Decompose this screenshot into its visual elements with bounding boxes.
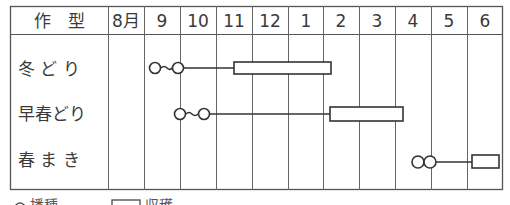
harvest-bar	[234, 62, 331, 74]
month-10: 10	[187, 11, 209, 31]
crop-schedule-chart: 作 型 8月 9 10 11 12 1 2 3 4 5 6 冬 ど り 早春どり…	[0, 0, 510, 205]
legend-sow-icon	[15, 203, 25, 205]
row-label-spring-sowing: 春 ま き	[18, 150, 80, 170]
legend-harvest-label: 収穫	[145, 197, 173, 205]
month-12: 12	[259, 11, 281, 31]
month-6: 6	[480, 11, 491, 31]
month-9: 9	[157, 11, 168, 31]
schedule-row-spring-sowing	[412, 155, 499, 168]
legend: 播種 収穫	[15, 197, 173, 205]
month-2: 2	[336, 11, 347, 31]
link-squiggle	[186, 113, 198, 116]
month-11: 11	[223, 11, 245, 31]
sowing-circle-icon	[412, 156, 424, 168]
month-1: 1	[301, 11, 312, 31]
row-label-early-spring: 早春どり	[18, 104, 86, 124]
month-5: 5	[444, 11, 455, 31]
sowing-circle-icon	[199, 109, 210, 120]
sowing-circle-icon	[175, 109, 186, 120]
month-8: 8月	[112, 11, 140, 31]
header-crop-type: 作 型	[34, 11, 85, 31]
link-squiggle	[161, 67, 172, 70]
sowing-circle-icon	[173, 63, 184, 74]
harvest-bar	[330, 107, 403, 121]
schedule-row-winter	[150, 62, 332, 74]
legend-sow-label: 播種	[30, 197, 58, 205]
harvest-bar	[472, 155, 499, 168]
month-4: 4	[408, 11, 419, 31]
row-label-winter: 冬 ど り	[18, 59, 80, 79]
sowing-circle-icon	[424, 156, 436, 168]
sowing-circle-icon	[150, 63, 161, 74]
month-3: 3	[372, 11, 383, 31]
legend-harvest-icon	[112, 200, 140, 205]
